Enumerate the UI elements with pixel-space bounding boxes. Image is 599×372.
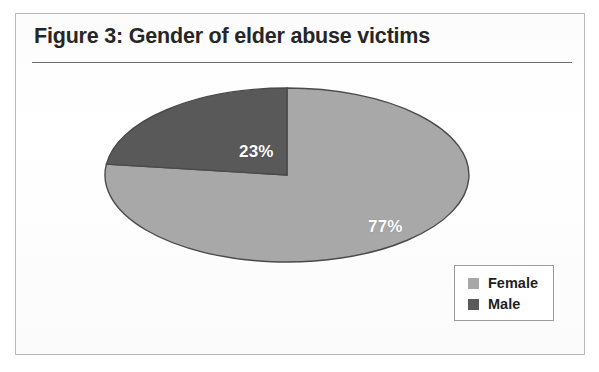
chart-legend: Female Male bbox=[454, 265, 554, 321]
pie-label-male: 23% bbox=[239, 142, 274, 162]
figure-frame: Figure 3: Gender of elder abuse victims … bbox=[15, 13, 585, 355]
legend-item-female[interactable]: Female bbox=[468, 273, 553, 294]
legend-label-female: Female bbox=[488, 276, 538, 291]
legend-swatch-female bbox=[468, 278, 479, 289]
pie-label-female: 77% bbox=[368, 217, 403, 237]
chart-plot-area: 23% 77% Female Male bbox=[16, 14, 586, 356]
figure-page: Figure 3: Gender of elder abuse victims … bbox=[0, 0, 599, 372]
legend-swatch-male bbox=[468, 299, 479, 310]
legend-label-male: Male bbox=[488, 297, 520, 312]
legend-item-male[interactable]: Male bbox=[468, 294, 553, 315]
pie-chart bbox=[101, 84, 473, 266]
